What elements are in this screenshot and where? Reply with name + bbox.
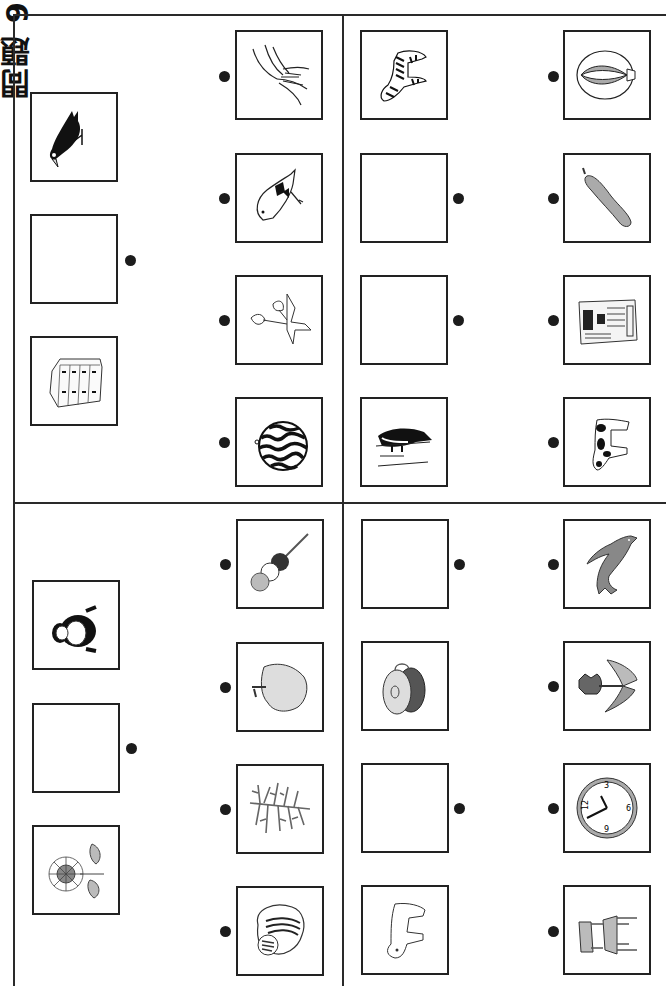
watermelon-icon (243, 406, 315, 478)
small-bird-icon (243, 162, 315, 234)
connect-dot[interactable] (219, 315, 230, 326)
flowering-branch-icon (243, 284, 315, 356)
apple-icon (244, 651, 316, 723)
divider-vertical (342, 14, 344, 986)
picture-card-coral[interactable] (236, 764, 324, 854)
connect-dot[interactable] (220, 682, 231, 693)
clock-label-9: 9 (604, 825, 609, 834)
connect-dot[interactable] (548, 803, 559, 814)
connect-dot[interactable] (219, 71, 230, 82)
divider-horizontal (13, 502, 666, 504)
connect-dot[interactable] (219, 193, 230, 204)
picture-card-watermelon[interactable] (235, 397, 323, 487)
picture-card-chair[interactable] (563, 885, 651, 975)
picture-card-flowering-branch[interactable] (235, 275, 323, 365)
picture-card-castanets[interactable] (361, 641, 449, 731)
picture-card-pampas-grass[interactable] (235, 30, 323, 120)
crow-icon (38, 101, 110, 173)
picture-card-apple[interactable] (236, 642, 324, 732)
answer-box-blank[interactable] (30, 214, 118, 304)
picture-card-small-bird[interactable] (235, 153, 323, 243)
loofah-gourd-icon (571, 162, 643, 234)
connect-dot[interactable] (548, 315, 559, 326)
answer-box-blank[interactable] (361, 763, 449, 853)
connect-dot[interactable] (125, 255, 136, 266)
zebra-icon (368, 39, 440, 111)
answer-box-blank[interactable] (360, 153, 448, 243)
picture-card-tulip[interactable] (563, 641, 651, 731)
connect-dot[interactable] (220, 559, 231, 570)
connect-dot[interactable] (548, 71, 559, 82)
connect-dot[interactable] (220, 926, 231, 937)
picture-card-hot-air-balloon[interactable] (563, 30, 651, 120)
connect-dot[interactable] (548, 559, 559, 570)
connect-dot[interactable] (548, 926, 559, 937)
cow-icon (571, 406, 643, 478)
gorilla-icon (40, 589, 112, 661)
wall-clock-icon: 12 3 6 9 (571, 772, 643, 844)
picture-card-loofah-gourd[interactable] (563, 153, 651, 243)
connect-dot[interactable] (454, 559, 465, 570)
dango-skewer-icon (244, 528, 316, 600)
picture-card-cow[interactable] (563, 397, 651, 487)
picture-card-wall-clock[interactable]: 12 3 6 9 (563, 763, 651, 853)
connect-dot[interactable] (548, 437, 559, 448)
connect-dot[interactable] (220, 804, 231, 815)
clock-label-6: 6 (626, 804, 631, 813)
coral-icon (244, 773, 316, 845)
chair-icon (571, 894, 643, 966)
connect-dot[interactable] (453, 193, 464, 204)
picture-card-penguin[interactable] (360, 397, 448, 487)
answer-box-blank[interactable] (361, 519, 449, 609)
cabinet-icon (38, 345, 110, 417)
picture-card-chipmunk[interactable] (236, 886, 324, 976)
hot-air-balloon-icon (571, 39, 643, 111)
picture-card-drawer-cabinet[interactable] (30, 336, 118, 426)
connect-dot[interactable] (454, 803, 465, 814)
picture-card-gorilla[interactable] (32, 580, 120, 670)
page-title: 問題 9 (0, 0, 14, 190)
hippopotamus-icon (369, 894, 441, 966)
chipmunk-icon (244, 895, 316, 967)
connect-dot[interactable] (126, 743, 137, 754)
picture-card-zebra[interactable] (360, 30, 448, 120)
frame-left (13, 14, 15, 986)
dolphin-icon (571, 528, 643, 600)
connect-dot[interactable] (548, 681, 559, 692)
picture-card-hippopotamus[interactable] (361, 885, 449, 975)
picture-card-dango-skewer[interactable] (236, 519, 324, 609)
newspaper-icon (571, 284, 643, 356)
tulip-icon (571, 650, 643, 722)
connect-dot[interactable] (548, 193, 559, 204)
picture-card-dolphin[interactable] (563, 519, 651, 609)
sunflower-icon (40, 834, 112, 906)
clock-label-12: 12 (581, 800, 590, 810)
picture-card-sunflower[interactable] (32, 825, 120, 915)
clock-label-3: 3 (604, 781, 609, 790)
pampas-grass-icon (243, 39, 315, 111)
answer-box-blank[interactable] (32, 703, 120, 793)
frame-top (13, 14, 666, 16)
connect-dot[interactable] (453, 315, 464, 326)
connect-dot[interactable] (219, 437, 230, 448)
picture-card-newspaper[interactable] (563, 275, 651, 365)
picture-card-crow[interactable] (30, 92, 118, 182)
answer-box-blank[interactable] (360, 275, 448, 365)
castanets-icon (369, 650, 441, 722)
penguin-icon (368, 406, 440, 478)
